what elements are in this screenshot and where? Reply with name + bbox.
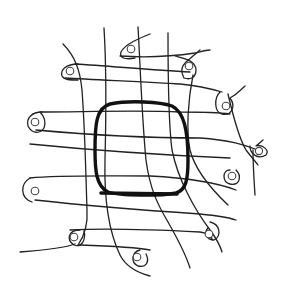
- mesh-drawing: [0, 0, 288, 285]
- pin-icon: [66, 67, 74, 75]
- pin-icon: [228, 172, 236, 180]
- pin-icon: [133, 253, 141, 261]
- horizontal-strands: [20, 50, 258, 252]
- central-frame: [95, 102, 188, 195]
- pin-icon: [255, 147, 262, 154]
- pin-icon: [70, 233, 78, 241]
- pin-icon: [31, 187, 39, 195]
- pin-icon: [222, 102, 230, 110]
- pin-icon: [185, 62, 193, 70]
- pin-icon: [31, 118, 39, 126]
- vertical-strands: [63, 27, 258, 276]
- pin-icon: [127, 45, 135, 53]
- pin-icon: [205, 230, 213, 238]
